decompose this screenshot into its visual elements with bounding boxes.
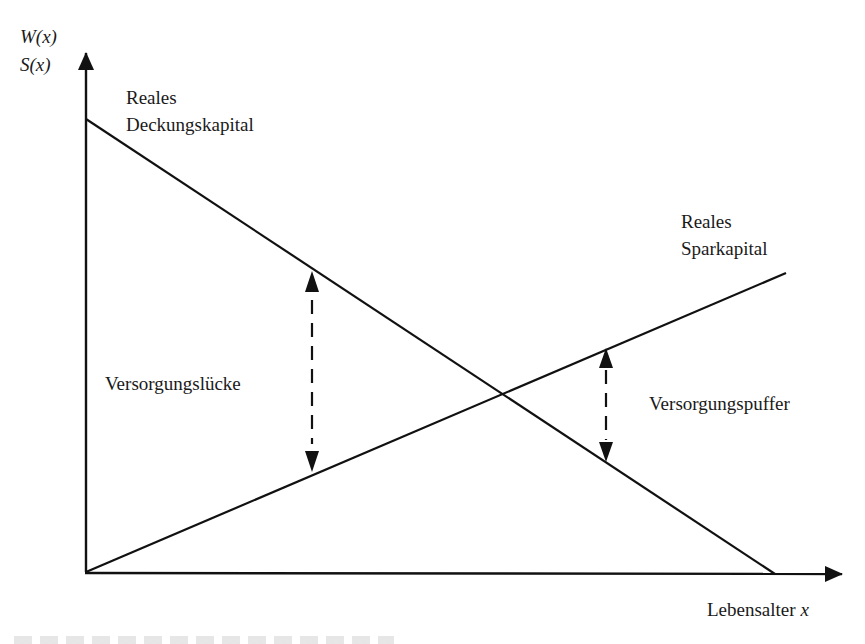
sparkapital-label-line1: Reales	[681, 210, 732, 233]
x-axis-label-variable: x	[800, 599, 808, 620]
buffer-label: Versorgungspuffer	[649, 392, 790, 415]
y-axis-label-w: W(x)	[20, 25, 57, 48]
deckungskapital-label-line2: Deckungskapital	[126, 113, 254, 136]
gap-double-arrow	[305, 271, 319, 472]
sparkapital-line	[86, 273, 786, 572]
x-axis	[85, 573, 842, 574]
deckungskapital-line	[86, 119, 775, 574]
x-axis-label: Lebensalter x	[707, 598, 809, 621]
buffer-double-arrow	[599, 348, 613, 462]
x-axis-label-text: Lebensalter	[707, 599, 800, 620]
y-axis-label-s: S(x)	[20, 53, 51, 76]
gap-label: Versorgungslücke	[105, 372, 241, 395]
sparkapital-label-line2: Sparkapital	[681, 237, 768, 260]
deckungskapital-label-line1: Reales	[126, 86, 177, 109]
cropped-caption-line	[14, 636, 394, 644]
